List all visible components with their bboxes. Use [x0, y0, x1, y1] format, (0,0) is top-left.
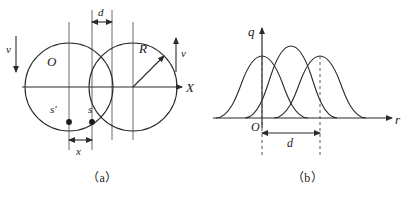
label-gap-x: x — [75, 145, 81, 157]
label-axis-q: q — [248, 24, 255, 39]
label-source-left: s′ — [50, 103, 57, 115]
panel-a: O R X v v d x s′ s （a） — [0, 0, 205, 202]
label-velocity-left: v — [6, 43, 11, 55]
source-dot-left — [66, 119, 72, 125]
label-center-O: O — [47, 54, 57, 69]
label-velocity-right: v — [181, 47, 186, 59]
caption-panel-a: （a） — [0, 168, 205, 186]
label-origin-O: O — [251, 120, 260, 134]
radius-arrow — [133, 56, 164, 87]
label-gap-d: d — [98, 6, 104, 18]
figure-root: O R X v v d x s′ s （a） — [0, 0, 410, 202]
label-radius-R: R — [138, 41, 147, 56]
label-axis-X: X — [185, 80, 195, 95]
label-source-right: s — [88, 103, 92, 115]
curve-group — [216, 46, 366, 118]
panel-b: q r O d （b） — [205, 0, 410, 202]
label-axis-r: r — [395, 112, 401, 127]
construction-lines — [69, 10, 133, 150]
label-gap-d-b: d — [287, 136, 294, 150]
caption-panel-b: （b） — [205, 168, 410, 186]
source-dot-right — [89, 119, 95, 125]
